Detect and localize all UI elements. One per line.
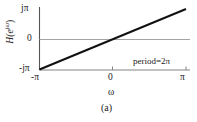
y-axis-label-exponent: jω <box>3 23 10 29</box>
y-axis-tick-label-bottom: -jπ <box>19 64 30 74</box>
y-axis-tick-label-top: jπ <box>21 4 28 14</box>
period-annotation: period=2π <box>133 57 170 66</box>
figure-caption: (a) <box>101 103 112 113</box>
x-axis-tick-label-minus-pi: -π <box>31 73 39 83</box>
y-axis-label: H(ejω) <box>6 10 16 54</box>
x-axis-label: ω <box>108 88 114 98</box>
y-axis-label-prefix: H(e <box>5 29 15 43</box>
y-axis-tick-label-zero: 0 <box>27 34 32 44</box>
figure-panel: jπ 0 -jπ -π 0 π period=2π ω H(ejω) (a) <box>0 0 197 122</box>
x-axis-tick-label-pi: π <box>180 73 185 83</box>
x-axis-tick-label-zero: 0 <box>108 73 113 83</box>
y-axis-label-suffix: ) <box>5 20 15 23</box>
